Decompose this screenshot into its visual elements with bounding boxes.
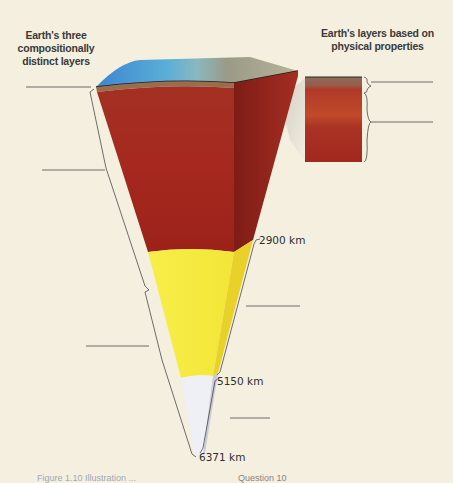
physical-layers-column: [305, 77, 362, 162]
compositional-layers-heading: Earth's three compositionally distinct l…: [16, 29, 96, 68]
physical-layers-heading: Earth's layers based on physical propert…: [315, 27, 440, 53]
question-label: Question 10: [238, 473, 287, 483]
figure-caption: Figure 1.10 Illustration ...: [37, 473, 136, 483]
depth-label-2900: 2900 km: [259, 234, 305, 246]
physical-braces: [364, 77, 433, 162]
depth-label-5150: 5150 km: [217, 375, 263, 387]
mantle-layer: [97, 86, 234, 252]
mantle-side-face: [234, 71, 298, 252]
depth-label-6371: 6371 km: [199, 451, 245, 463]
